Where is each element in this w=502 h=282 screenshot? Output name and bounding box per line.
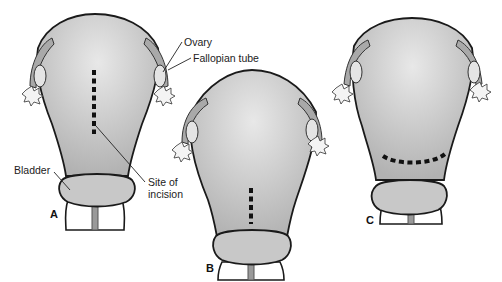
uterus-a: [37, 14, 159, 176]
ovary-label: Ovary: [184, 36, 213, 48]
uterine-incision-diagram: A Bladder Site of incision Ovary Fallopi…: [0, 0, 502, 282]
panel-c: C: [332, 18, 491, 226]
bladder-b: [213, 230, 291, 265]
panel-label-b: B: [206, 262, 214, 274]
panel-label-c: C: [366, 214, 374, 226]
panel-a: A Bladder Site of incision: [14, 14, 183, 230]
fallopian-tube-leader-line: [168, 58, 191, 70]
panel-label-a: A: [50, 208, 58, 220]
uterus-c: [352, 18, 472, 180]
bladder-a: [59, 174, 135, 207]
fimbria-right-a: [154, 86, 175, 106]
fallopian-tube-label: Fallopian tube: [193, 52, 259, 64]
bladder-label: Bladder: [14, 164, 51, 176]
panel-b: B: [172, 70, 329, 280]
site-of-incision-label-line1: Site of: [148, 176, 178, 188]
bladder-c: [372, 180, 447, 215]
site-of-incision-label-line2: incision: [148, 188, 183, 200]
ovary-right-a: [154, 65, 166, 87]
ovary-left-a: [34, 65, 46, 87]
uterus-b: [190, 70, 316, 242]
